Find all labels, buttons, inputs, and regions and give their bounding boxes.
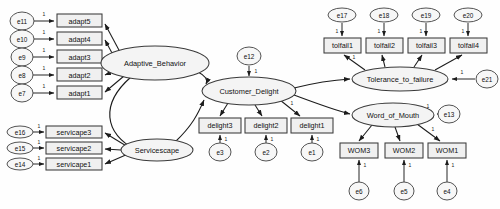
latent-label-tolerance-to-failure: Tolerance_to_failure <box>367 75 434 84</box>
covariance-adaptive-behavior-servicescape <box>110 77 136 150</box>
error-paths-wom: 1 1 1 <box>359 160 455 182</box>
latent-label-servicescape: Servicescape <box>135 146 179 155</box>
coef-e12: 1 <box>255 68 258 74</box>
error-node-e19[interactable]: e19 <box>412 8 440 22</box>
latent-node-tolerance-to-failure[interactable]: Tolerance_to_failure <box>352 67 448 91</box>
error-label-e16: e16 <box>15 129 26 136</box>
observed-node-adapt3[interactable]: adapt3 <box>57 50 102 63</box>
coef-e16: 1 <box>38 123 41 129</box>
error-label-e6: e6 <box>355 188 363 195</box>
latent-node-word-of-mouth[interactable]: Word_of_Mouth <box>352 103 434 127</box>
coef-e6: 1 <box>364 162 367 168</box>
coef-e4: 1 <box>452 162 455 168</box>
path-ttf-tolfail3 <box>414 55 422 67</box>
error-node-e8[interactable]: e8 <box>11 66 33 84</box>
error-label-e14: e14 <box>15 161 26 168</box>
observed-node-delight2[interactable]: delight2 <box>245 118 287 133</box>
error-label-e9: e9 <box>18 54 26 61</box>
coef-cd-delight1: 1 <box>291 100 294 106</box>
error-node-e4[interactable]: e4 <box>437 182 457 200</box>
error-paths-adapt: 1 1 1 1 1 <box>33 11 54 93</box>
error-node-e17[interactable]: e17 <box>328 8 356 22</box>
latent-node-adaptive-behavior[interactable]: Adaptive_Behavior <box>101 46 209 80</box>
observed-label-adapt4: adapt4 <box>69 35 91 44</box>
error-label-e12: e12 <box>244 53 255 60</box>
error-node-e16[interactable]: e16 <box>7 126 33 138</box>
error-node-e15[interactable]: e15 <box>7 142 33 154</box>
error-node-e13[interactable]: e13 <box>438 105 460 123</box>
error-label-e1: e1 <box>308 149 316 156</box>
observed-node-wom3[interactable]: WOM3 <box>340 143 378 158</box>
observed-node-servicape1[interactable]: servicape1 <box>46 158 102 170</box>
coef-ttf-tolfail1: 1 <box>353 54 356 60</box>
path-ttf-tolfail2 <box>382 55 385 67</box>
coef-wom-wom1: 1 <box>432 126 435 132</box>
error-node-e12[interactable]: e12 <box>237 47 261 65</box>
path-wom-wom1 <box>417 124 440 141</box>
observed-label-servicape3: servicape3 <box>57 128 92 137</box>
observed-label-tolfail4: tolfail4 <box>458 41 479 50</box>
observed-label-servicape2: servicape2 <box>57 144 92 153</box>
error-node-e11[interactable]: e11 <box>10 12 34 30</box>
observed-node-tolfail4[interactable]: tolfail4 <box>450 38 487 53</box>
observed-label-adapt1: adapt1 <box>69 89 91 98</box>
error-node-e1[interactable]: e1 <box>301 143 323 161</box>
error-node-e20[interactable]: e20 <box>454 8 482 22</box>
error-node-e3[interactable]: e3 <box>209 143 231 161</box>
error-node-e5[interactable]: e5 <box>394 182 414 200</box>
error-node-e6[interactable]: e6 <box>349 182 369 200</box>
observed-node-wom2[interactable]: WOM2 <box>385 143 423 158</box>
error-label-e7: e7 <box>18 90 26 97</box>
error-node-e14[interactable]: e14 <box>7 158 33 170</box>
path-ab-adapt4 <box>105 40 112 53</box>
coef-e5: 1 <box>409 162 412 168</box>
error-paths-servicape: 1 1 1 <box>33 123 44 164</box>
coef-e2: 1 <box>271 136 274 142</box>
observed-node-adapt1[interactable]: adapt1 <box>57 86 102 99</box>
observed-label-wom3: WOM3 <box>348 146 370 155</box>
latent-node-customer-delight[interactable]: Customer_Delight <box>202 77 296 105</box>
observed-node-tolfail3[interactable]: tolfail3 <box>408 38 445 53</box>
observed-node-adapt5[interactable]: adapt5 <box>57 14 102 27</box>
coef-e8: 1 <box>43 65 46 71</box>
latent-label-customer-delight: Customer_Delight <box>219 87 278 96</box>
observed-label-delight1: delight1 <box>299 121 324 130</box>
observed-label-delight3: delight3 <box>207 121 232 130</box>
observed-node-delight3[interactable]: delight3 <box>199 118 241 133</box>
error-node-e10[interactable]: e10 <box>10 30 34 48</box>
observed-node-servicape3[interactable]: servicape3 <box>46 126 102 138</box>
observed-node-servicape2[interactable]: servicape2 <box>46 142 102 154</box>
error-paths-tolfail: 1 1 1 1 <box>336 23 468 36</box>
observed-label-tolfail1: tolfail1 <box>332 41 353 50</box>
path-ab-adapt5 <box>105 24 120 52</box>
observed-node-adapt2[interactable]: adapt2 <box>57 68 102 81</box>
coef-e9: 1 <box>43 47 46 53</box>
path-ss-servicape2 <box>105 149 121 150</box>
sem-path-diagram-canvas: 1 1 1 1 1 1 1 1 1 <box>0 0 500 209</box>
error-node-e18[interactable]: e18 <box>370 8 398 22</box>
diagram-svg: 1 1 1 1 1 1 1 1 1 <box>0 0 500 209</box>
observed-label-delight2: delight2 <box>253 121 278 130</box>
error-label-e20: e20 <box>463 12 474 19</box>
path-wom-wom3 <box>359 125 372 141</box>
error-node-e21[interactable]: e21 <box>476 70 498 88</box>
error-label-e17: e17 <box>337 12 348 19</box>
latent-node-servicescape[interactable]: Servicescape <box>121 139 193 161</box>
error-label-e4: e4 <box>443 188 451 195</box>
observed-node-delight1[interactable]: delight1 <box>291 118 333 133</box>
observed-node-adapt4[interactable]: adapt4 <box>57 32 102 45</box>
coef-e10: 1 <box>43 29 46 35</box>
error-node-e2[interactable]: e2 <box>255 143 277 161</box>
path-ab-cd <box>198 72 207 84</box>
error-label-e5: e5 <box>400 188 408 195</box>
latent-label-adaptive-behavior: Adaptive_Behavior <box>124 59 187 68</box>
observed-node-tolfail2[interactable]: tolfail2 <box>366 38 403 53</box>
coef-e7: 1 <box>43 83 46 89</box>
error-node-e9[interactable]: e9 <box>11 48 33 66</box>
latent-label-word-of-mouth: Word_of_Mouth <box>367 111 419 120</box>
error-node-e7[interactable]: e7 <box>11 84 33 102</box>
observed-node-wom1[interactable]: WOM1 <box>428 143 466 158</box>
path-ab-adapt1 <box>105 76 124 92</box>
error-label-e3: e3 <box>216 149 224 156</box>
observed-node-tolfail1[interactable]: tolfail1 <box>324 38 361 53</box>
